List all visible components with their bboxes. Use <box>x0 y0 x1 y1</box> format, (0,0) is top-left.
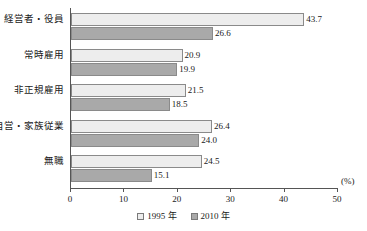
legend-label: 2010 年 <box>201 210 230 222</box>
bar-group: 経営者・役員43.726.6 <box>0 5 367 33</box>
bar-value-label: 26.4 <box>214 120 230 133</box>
bar-series1 <box>71 155 202 168</box>
bar-value-label: 24.0 <box>201 134 217 147</box>
bar-group: 自営・家族従業26.424.0 <box>0 112 367 140</box>
bar-value-label: 21.5 <box>188 84 204 97</box>
bar-value-label: 15.1 <box>154 169 170 182</box>
bar-series1 <box>71 120 212 133</box>
legend-label: 1995 年 <box>147 210 176 222</box>
legend-swatch-icon <box>137 213 144 220</box>
bar-series2 <box>71 98 170 111</box>
x-tick <box>177 188 178 192</box>
bar-group: 非正規雇用21.518.5 <box>0 76 367 104</box>
category-label: 無職 <box>0 155 64 167</box>
category-label: 自営・家族従業 <box>0 120 64 132</box>
bar-group: 無職24.515.1 <box>0 147 367 175</box>
bar-series2 <box>71 169 152 182</box>
x-tick <box>70 188 71 192</box>
x-tick-label: 40 <box>279 194 288 205</box>
bar-value-label: 20.9 <box>185 49 201 62</box>
bar-series2 <box>71 63 177 76</box>
x-tick <box>284 188 285 192</box>
x-tick-label: 10 <box>119 194 128 205</box>
category-label: 経営者・役員 <box>0 13 64 25</box>
x-tick <box>123 188 124 192</box>
category-label: 非正規雇用 <box>0 84 64 96</box>
x-axis-line <box>70 188 338 189</box>
bar-value-label: 24.5 <box>204 155 220 168</box>
bar-group: 常時雇用20.919.9 <box>0 41 367 69</box>
x-tick <box>230 188 231 192</box>
x-tick <box>337 188 338 192</box>
bar-value-label: 19.9 <box>179 63 195 76</box>
x-tick-label: 20 <box>172 194 181 205</box>
x-tick-label: 0 <box>68 194 73 205</box>
bar-value-label: 43.7 <box>306 13 322 26</box>
bar-value-label: 26.6 <box>215 27 231 40</box>
bar-value-label: 18.5 <box>172 98 188 111</box>
bar-series2 <box>71 134 199 147</box>
legend-item: 2010 年 <box>191 210 230 222</box>
bar-series1 <box>71 84 186 97</box>
bar-series1 <box>71 13 304 26</box>
legend-swatch-icon <box>191 213 198 220</box>
x-tick-label: 50 <box>333 194 342 205</box>
legend-item: 1995 年 <box>137 210 176 222</box>
chart-legend: 1995 年2010 年 <box>0 210 367 222</box>
category-label: 常時雇用 <box>0 49 64 61</box>
bar-chart: 01020304050 (%) 経営者・役員43.726.6常時雇用20.919… <box>0 0 367 231</box>
x-axis-unit-label: (%) <box>341 176 355 187</box>
x-tick-label: 30 <box>226 194 235 205</box>
bar-series2 <box>71 27 213 40</box>
bar-series1 <box>71 49 183 62</box>
